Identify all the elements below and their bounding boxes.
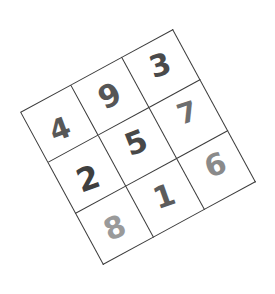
digit-grid: 4 9 3 2 5 7 8 1: [20, 29, 256, 265]
rotated-grid-wrapper: 4 9 3 2 5 7 8 1: [20, 29, 256, 265]
image-canvas: 4 9 3 2 5 7 8 1: [0, 0, 275, 294]
